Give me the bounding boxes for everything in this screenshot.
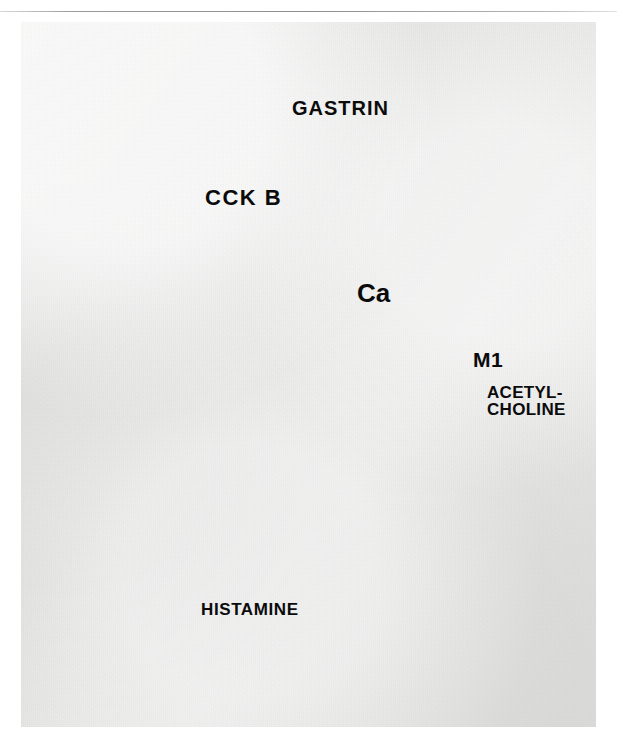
label-acetylcholine: ACETYL- CHOLINE	[487, 384, 566, 419]
figure-panel: GASTRIN CCK B Ca M1 ACETYL- CHOLINE HIST…	[21, 22, 596, 727]
label-calcium: Ca	[357, 280, 390, 307]
label-acetylcholine-line2: CHOLINE	[487, 401, 566, 418]
label-gastrin: GASTRIN	[292, 98, 389, 118]
label-acetylcholine-line1: ACETYL-	[487, 384, 566, 401]
figure-background-grain	[21, 22, 596, 727]
header-divider	[0, 11, 617, 12]
label-histamine: HISTAMINE	[201, 601, 299, 618]
label-cck-b: CCK B	[205, 187, 282, 209]
label-m1: M1	[473, 349, 503, 370]
